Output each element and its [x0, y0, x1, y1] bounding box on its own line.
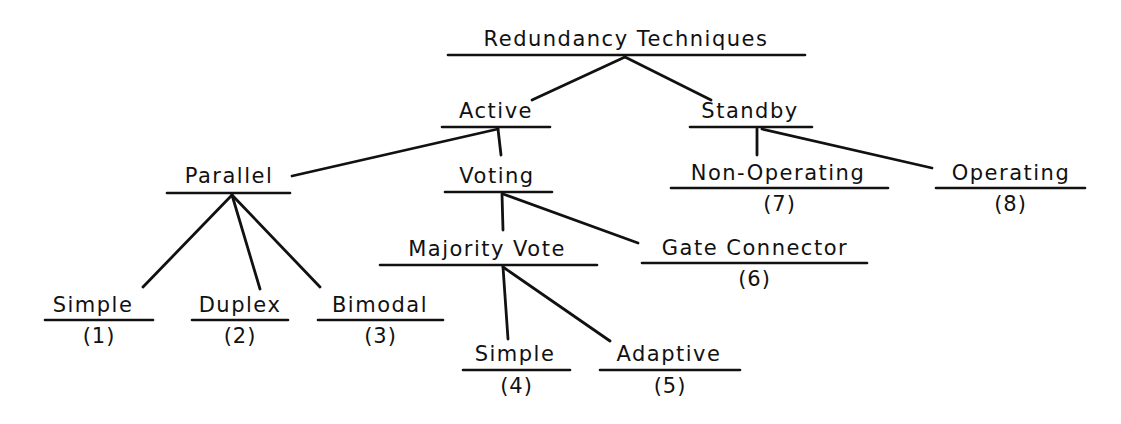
node-number-7: (7) [763, 192, 796, 216]
node-active-label: Active [459, 99, 533, 123]
edge-active-to-voting [498, 129, 501, 155]
node-number-8: (8) [994, 192, 1027, 216]
node-number-1: (1) [83, 324, 116, 348]
node-simple-majority-label: Simple [475, 342, 556, 366]
node-non-operating-label: Non-Operating [691, 161, 866, 185]
node-majority-vote-label: Majority Vote [408, 237, 566, 261]
node-number-2: (2) [224, 324, 257, 348]
node-parallel-label: Parallel [185, 164, 274, 188]
redundancy-techniques-diagram [0, 0, 1121, 424]
edge-parallel-to-simple1 [143, 195, 232, 287]
node-number-4: (4) [500, 374, 533, 398]
node-operating-label: Operating [952, 161, 1071, 185]
node-adaptive-label: Adaptive [617, 342, 722, 366]
edge-majority-to-adaptive [503, 267, 610, 341]
node-number-6: (6) [738, 267, 771, 291]
edge-root-to-standby [625, 57, 711, 100]
node-standby-label: Standby [701, 99, 798, 123]
edge-voting-to-majority [502, 194, 503, 230]
node-gate-connector-label: Gate Connector [662, 236, 848, 260]
node-voting-label: Voting [459, 164, 534, 188]
node-bimodal-label: Bimodal [332, 293, 428, 317]
node-underlines [45, 55, 1085, 370]
edge-majority-to-simple4 [503, 267, 508, 339]
node-duplex-label: Duplex [199, 293, 282, 317]
node-number-3: (3) [364, 324, 397, 348]
edge-voting-to-gate [503, 194, 638, 243]
edge-root-to-active [532, 57, 625, 100]
node-simple-parallel-label: Simple [53, 293, 134, 317]
node-number-5: (5) [654, 374, 687, 398]
node-root-label: Redundancy Techniques [484, 27, 769, 51]
